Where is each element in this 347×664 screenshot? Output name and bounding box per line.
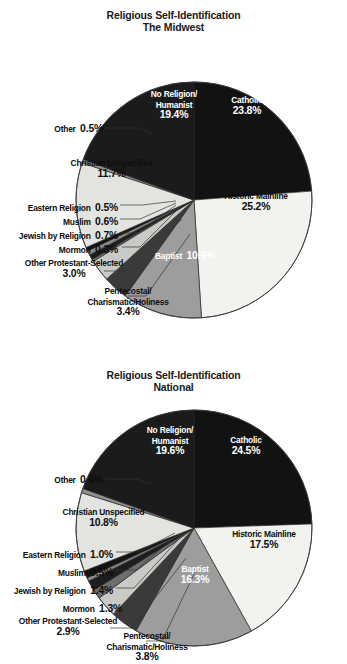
slice-label-eastern-religion-national: Eastern Religion 1.0%	[0, 548, 113, 561]
slice-label-jewish-midwest: Jewish by Religion 0.7%	[2, 229, 118, 242]
slice-label-no-religion-midwest: No Religion/ Humanist 19.4%	[136, 89, 212, 121]
slice-label-no-religion-national: No Religion/ Humanist 19.6%	[131, 425, 209, 457]
slice-label-historic-mainline-midwest: Historic Mainline 25.2%	[206, 191, 306, 212]
slice-label-pentecostal-midwest: Pentecostal/ Charismatic/Holiness 3.4%	[68, 286, 188, 318]
chart-midwest: Religious Self-Identification The Midwes…	[0, 0, 347, 340]
slice-label-historic-mainline-national: Historic Mainline 17.5%	[214, 529, 314, 550]
slice-label-other-national: Other 0.6%	[6, 473, 103, 486]
chart-national: Religious Self-Identification National N…	[0, 340, 347, 664]
slice-label-jewish-national: Jewish by Religion 1.4%	[0, 584, 113, 597]
slice-label-eastern-religion-midwest: Eastern Religion 0.5%	[2, 201, 118, 214]
slice-label-catholic-national: Catholic 24.5%	[211, 435, 281, 456]
slice-label-pentecostal-national: Pentecostal/ Charismatic/Holiness 3.8%	[85, 631, 209, 663]
slice-label-christian-unspecified-midwest: Christian Unspecified 11.7%	[44, 158, 179, 179]
slice-label-muslim-midwest: Muslim 0.6%	[2, 215, 118, 228]
slice-label-muslim-national: Muslim 0.5%	[0, 566, 113, 579]
slice-label-baptist-national: Baptist 16.3%	[157, 564, 233, 585]
slice-label-catholic-midwest: Catholic 23.8%	[212, 95, 282, 116]
slice-label-mormon-midwest: Mormon 0.3%	[2, 243, 118, 256]
slice-label-baptist-midwest: Baptist 10.9%	[155, 249, 245, 262]
slice-label-mormon-national: Mormon 1.3%	[0, 602, 122, 615]
slice-label-christian-unspecified-national: Christian Unspecified 10.8%	[36, 507, 171, 528]
pie-slice	[194, 410, 312, 528]
slice-label-other-protestant-midwest: Other Protestant-Selected 3.0%	[8, 258, 140, 279]
slice-label-other-midwest: Other 0.5%	[8, 122, 103, 135]
